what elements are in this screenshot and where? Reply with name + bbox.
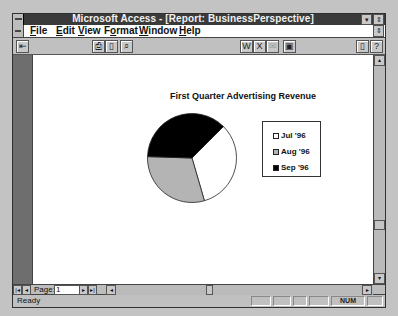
legend-swatch-jul bbox=[273, 133, 279, 139]
page-label: Page: bbox=[34, 285, 55, 295]
menu-file[interactable]: File bbox=[30, 25, 47, 37]
print-icon: ⎙ bbox=[95, 41, 102, 51]
title-bar[interactable]: Microsoft Access - [Report: BusinessPers… bbox=[13, 14, 385, 25]
minimize-button[interactable]: ▾ bbox=[361, 14, 372, 25]
preview-background bbox=[13, 55, 33, 284]
pie-chart bbox=[146, 112, 238, 204]
legend-label-aug: Aug '96 bbox=[281, 147, 310, 156]
legend-swatch-aug bbox=[273, 149, 279, 155]
legend-item-aug: Aug '96 bbox=[273, 147, 310, 156]
scroll-up-button[interactable]: ▴ bbox=[374, 55, 385, 66]
scroll-down-button[interactable]: ▾ bbox=[374, 273, 385, 284]
print-button[interactable]: ⎙ bbox=[92, 40, 105, 53]
document-restore-button[interactable]: ⇕ bbox=[373, 25, 384, 37]
vertical-scrollbar[interactable]: ▴ ▾ bbox=[373, 55, 385, 284]
document-system-menu-button[interactable] bbox=[13, 25, 24, 37]
menu-edit[interactable]: Edit bbox=[56, 25, 75, 37]
status-panel-6 bbox=[367, 296, 383, 306]
menu-bar: File Edit View Format Window Help ⇕ bbox=[13, 25, 385, 38]
status-panel-1 bbox=[251, 296, 271, 306]
previous-page-button[interactable]: ◂ bbox=[22, 285, 31, 295]
horizontal-scroll-thumb[interactable] bbox=[206, 285, 213, 295]
status-panel-3 bbox=[293, 296, 307, 306]
menu-file-accel: F bbox=[30, 25, 36, 36]
status-panel-4 bbox=[309, 296, 329, 306]
legend-swatch-sep bbox=[273, 165, 279, 171]
menu-window-accel: W bbox=[139, 25, 148, 36]
menu-edit-accel: E bbox=[56, 25, 63, 36]
menu-view-accel: V bbox=[78, 25, 85, 36]
report-page[interactable]: First Quarter Advertising Revenue Jul '9… bbox=[33, 55, 373, 284]
first-page-button[interactable]: |◂ bbox=[13, 285, 22, 295]
close-report-icon: ⇤ bbox=[19, 41, 27, 51]
horizontal-scrollbar[interactable]: ◂ ▸ bbox=[106, 285, 373, 295]
output-to-excel-icon: X bbox=[256, 41, 262, 51]
status-text: Ready bbox=[17, 295, 40, 307]
legend-label-jul: Jul '96 bbox=[281, 131, 306, 140]
menu-view[interactable]: View bbox=[78, 25, 101, 37]
scroll-left-button[interactable]: ◂ bbox=[106, 285, 116, 295]
page-setup-icon: ▯ bbox=[109, 41, 114, 51]
output-to-word-icon: W bbox=[242, 41, 251, 51]
zoom-button[interactable]: ⌕ bbox=[120, 40, 133, 53]
window-title: Microsoft Access - [Report: BusinessPers… bbox=[27, 13, 359, 24]
database-window-icon: ▣ bbox=[285, 41, 294, 51]
record-navigation-bar: |◂ ◂ Page: 1 ▸ ▸| ◂ ▸ bbox=[13, 284, 385, 295]
close-report-button[interactable]: ⇤ bbox=[16, 40, 29, 53]
toolbar: ⇤ ⎙ ▯ ⌕ W X ✉ ▣ ▯ ? bbox=[13, 38, 385, 55]
pie-slices bbox=[148, 113, 237, 202]
output-to-excel-button[interactable]: X bbox=[253, 40, 266, 53]
legend-item-jul: Jul '96 bbox=[273, 131, 306, 140]
menu-window[interactable]: Window bbox=[139, 25, 177, 37]
mail-button[interactable]: ✉ bbox=[266, 40, 279, 53]
access-window: Microsoft Access - [Report: BusinessPers… bbox=[12, 13, 386, 308]
legend-label-sep: Sep '96 bbox=[281, 163, 309, 172]
menu-help-accel: H bbox=[179, 25, 186, 36]
scroll-right-button[interactable]: ▸ bbox=[362, 285, 372, 295]
cue-cards-icon: ▯ bbox=[360, 41, 365, 51]
menu-help[interactable]: Help bbox=[179, 25, 201, 37]
last-page-button[interactable]: ▸| bbox=[88, 285, 97, 295]
zoom-icon: ⌕ bbox=[124, 41, 129, 51]
restore-button[interactable]: ⇕ bbox=[373, 14, 384, 25]
status-panel-2 bbox=[273, 296, 291, 306]
mail-icon: ✉ bbox=[269, 41, 277, 51]
vertical-scroll-thumb[interactable] bbox=[374, 220, 385, 230]
help-button[interactable]: ? bbox=[370, 40, 383, 53]
menu-format[interactable]: Format bbox=[104, 25, 138, 37]
system-menu-button[interactable] bbox=[13, 14, 24, 25]
menu-format-accel: o bbox=[110, 25, 116, 36]
chart-title: First Quarter Advertising Revenue bbox=[133, 91, 353, 101]
cue-cards-button[interactable]: ▯ bbox=[356, 40, 369, 53]
output-to-word-button[interactable]: W bbox=[240, 40, 253, 53]
status-bar: Ready NUM bbox=[13, 295, 385, 307]
num-lock-indicator: NUM bbox=[331, 296, 365, 306]
database-window-button[interactable]: ▣ bbox=[283, 40, 296, 53]
help-pointer-icon: ? bbox=[374, 41, 379, 51]
page-setup-button[interactable]: ▯ bbox=[105, 40, 118, 53]
chart-legend: Jul '96 Aug '96 Sep '96 bbox=[262, 121, 321, 177]
next-page-button[interactable]: ▸ bbox=[79, 285, 88, 295]
report-preview-area: First Quarter Advertising Revenue Jul '9… bbox=[13, 55, 385, 284]
legend-item-sep: Sep '96 bbox=[273, 163, 309, 172]
